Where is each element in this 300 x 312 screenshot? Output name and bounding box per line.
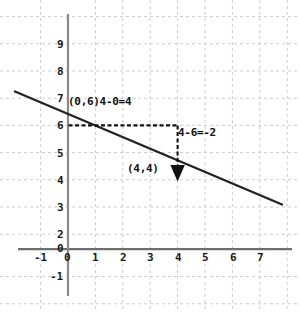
coordinate-plane-svg	[0, 0, 300, 312]
x-tick-label-6: 6	[230, 252, 237, 263]
data-line	[15, 92, 282, 205]
run-annotation: (0,6)4-0=4	[68, 96, 131, 107]
y-tick-label-5: 5	[57, 148, 64, 159]
x-tick-label-7: 7	[257, 252, 264, 263]
vertical-gridlines	[41, 0, 288, 312]
x-tick-label-1: 1	[92, 252, 99, 263]
x-tick-label-0: 0	[64, 252, 71, 263]
x-tick-label-5: 5	[202, 252, 209, 263]
rise-annotation: 4-6=-2	[178, 127, 216, 138]
y-tick-label-4: 4	[57, 175, 64, 186]
x-tick-label-4: 4	[175, 252, 182, 263]
y-tick-label-8: 8	[57, 66, 64, 77]
point-annotation: (4,4)	[127, 163, 159, 174]
y-tick-label-0: 0	[57, 243, 64, 254]
arrowhead-icon	[170, 165, 184, 182]
y-tick-label-2: 2	[57, 229, 64, 240]
y-tick-label-9: 9	[57, 39, 64, 50]
x-tick-label-3: 3	[147, 252, 154, 263]
y-tick-label-3: 3	[57, 202, 64, 213]
y-tick-label-7: 7	[57, 93, 64, 104]
x-tick-label-2: 2	[120, 252, 127, 263]
y-tick-label-neg1: -1	[50, 271, 63, 282]
graph-figure: -1 0 1 2 3 4 5 6 7 9 8 7 6 5 4 3 2 0 -1 …	[0, 0, 300, 312]
x-tick-label-neg1: -1	[34, 252, 47, 263]
y-tick-label-6: 6	[57, 120, 64, 131]
